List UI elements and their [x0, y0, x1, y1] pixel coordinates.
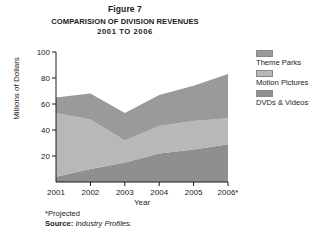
y-axis-title: Millions of Dollars	[12, 49, 21, 129]
chart-legend: Theme ParksMotion PicturesDVDs & Videos	[256, 50, 327, 110]
legend-swatch-icon	[256, 70, 273, 77]
y-axis-tick-label: 20	[41, 152, 50, 161]
legend-item-label: Motion Pictures	[256, 78, 327, 87]
x-axis-tick-label: 2005	[185, 188, 203, 195]
footnote-source-label: Source:	[45, 219, 73, 228]
legend-swatch-icon	[256, 90, 273, 97]
x-axis-tick-label: 2002	[82, 188, 100, 195]
y-axis-tick-label: 100	[37, 48, 51, 57]
x-axis-tick-label: 2001	[47, 188, 65, 195]
area-chart-plot: 20406080100200120022003200420052006*	[0, 0, 250, 195]
x-axis-title: Year	[56, 198, 228, 207]
legend-item-label: Theme Parks	[256, 58, 327, 67]
x-axis-tick-label: 2006*	[218, 188, 239, 195]
legend-swatch-icon	[256, 50, 273, 57]
legend-item: Motion Pictures	[256, 70, 327, 87]
x-axis-tick-label: 2003	[116, 188, 134, 195]
footnote-projected: *Projected	[45, 209, 132, 219]
footnote: *Projected Source: Industry Profiles.	[45, 209, 132, 229]
legend-item: Theme Parks	[256, 50, 327, 67]
figure-container: Figure 7 COMPARISION OF DIVISION REVENUE…	[0, 0, 327, 248]
y-axis-tick-label: 60	[41, 100, 50, 109]
y-axis-tick-label: 40	[41, 126, 50, 135]
legend-item-label: DVDs & Videos	[256, 98, 327, 107]
footnote-source-value: Industry Profiles.	[75, 219, 132, 228]
footnote-source: Source: Industry Profiles.	[45, 219, 132, 229]
y-axis-tick-label: 80	[41, 74, 50, 83]
x-axis-tick-label: 2004	[150, 188, 168, 195]
legend-item: DVDs & Videos	[256, 90, 327, 107]
